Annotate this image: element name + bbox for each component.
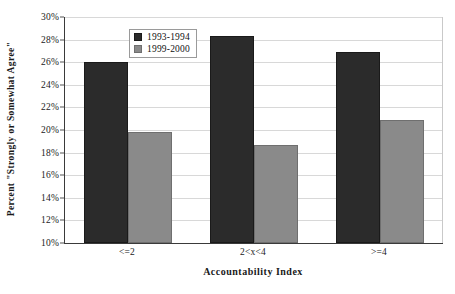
chart-legend: 1993-1994 1999-2000 <box>129 29 197 58</box>
legend-item-label: 1999-2000 <box>147 44 190 54</box>
bar <box>336 52 380 243</box>
y-axis-tick-labels: 30%28%26%24%22%20%18%16%14%12%10% <box>22 17 64 243</box>
y-axis-tick-label: 14% <box>41 193 59 203</box>
bar-chart: Percent "Strongly or Somewhat Agree" 30%… <box>0 0 455 294</box>
y-axis-tick-label: 16% <box>41 170 59 180</box>
bar <box>210 36 254 243</box>
y-axis-tick-label: 30% <box>41 12 59 22</box>
x-axis-tick-label: <=2 <box>119 247 135 257</box>
x-axis-tick-label: 2<x<4 <box>240 247 266 257</box>
y-axis-tick-label: 28% <box>41 35 59 45</box>
x-axis-tick-label: >=4 <box>371 247 387 257</box>
y-axis-tick-label: 26% <box>41 57 59 67</box>
legend-item: 1993-1994 <box>134 32 190 42</box>
y-axis-title: Percent "Strongly or Somewhat Agree" <box>0 0 22 258</box>
legend-swatch-icon <box>134 45 142 53</box>
y-axis-tick-label: 24% <box>41 80 59 90</box>
y-axis-tick-label: 20% <box>41 125 59 135</box>
plot-area <box>64 17 443 244</box>
bars-layer <box>65 17 443 243</box>
legend-item: 1999-2000 <box>134 44 190 54</box>
bar <box>84 62 128 243</box>
x-axis-title: Accountability Index <box>64 266 442 277</box>
y-axis-tick-label: 12% <box>41 215 59 225</box>
bar <box>128 132 172 243</box>
y-axis-tick-label: 10% <box>41 238 59 248</box>
x-axis-tick-labels: <=22<x<4>=4 <box>64 247 442 263</box>
bar <box>254 145 298 243</box>
legend-item-label: 1993-1994 <box>147 32 190 42</box>
legend-swatch-icon <box>134 33 142 41</box>
y-axis-tick-label: 22% <box>41 102 59 112</box>
y-axis-tick-label: 18% <box>41 148 59 158</box>
bar <box>380 120 424 243</box>
y-axis-title-text: Percent "Strongly or Somewhat Agree" <box>6 42 16 217</box>
